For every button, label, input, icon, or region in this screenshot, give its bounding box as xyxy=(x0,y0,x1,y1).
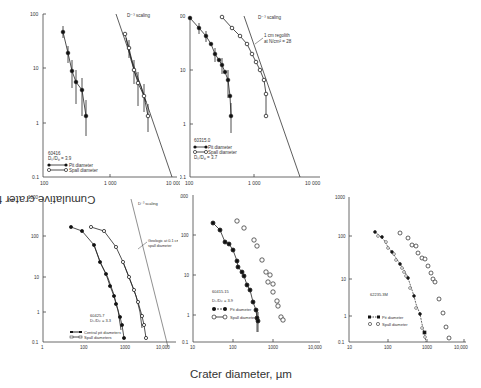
x-axis-label: Crater diameter, µm xyxy=(190,368,292,380)
legend: 62235.3M Pit diameter Spall diameter xyxy=(368,292,408,327)
x-tick-100: 100 xyxy=(80,345,88,350)
y-tick-0.1: 0.1 xyxy=(338,340,345,345)
y-tick-10: 10 xyxy=(184,273,190,278)
x-tick-10000: 10,000 xyxy=(454,345,468,350)
pit-series xyxy=(188,16,233,133)
diameter-ratio: Dₛ/Dₚ = 3.9 xyxy=(48,156,72,161)
panel-60425: 1000 100 10 1 0.1 1 100 1000 10,000 D⁻³ … xyxy=(28,192,178,352)
y-tick-100: 100 xyxy=(31,234,39,239)
x-tick-100: 100 xyxy=(384,345,392,350)
x-tick-1000: 1 000 xyxy=(248,180,261,186)
legend-spall: Spall diameter xyxy=(208,150,237,155)
geologic-annotation-1: Geologic at 0.1 cm xyxy=(148,239,178,243)
legend: 60415.15 Dₛ/Dₚ = 3.9 Pit diameter Spall … xyxy=(212,289,256,320)
x-tick-10: 10 xyxy=(347,345,353,350)
panel-60416: 100 10 1 0.1 100 1 000 10 000 D⁻³ scalin… xyxy=(30,8,180,188)
y-tick-10: 10 xyxy=(34,275,40,280)
pit-series xyxy=(61,26,88,136)
y-tick-0.1: 0.1 xyxy=(32,340,39,345)
legend-spall: Spall diameter xyxy=(230,315,256,320)
legend-spall: Spall diameter xyxy=(69,168,98,173)
y-tick-100: 100 xyxy=(338,234,346,239)
x-tick-1000: 1 000 xyxy=(104,180,117,186)
sample-id: 60415.15 xyxy=(212,289,229,294)
x-tick-10000: 10 000 xyxy=(166,180,180,186)
legend-spall: Spall diameters xyxy=(84,335,112,340)
y-tick-1: 1 xyxy=(187,313,190,318)
scaling-annotation: D⁻³ scaling xyxy=(258,15,282,20)
y-tick-1: 1 xyxy=(37,310,40,315)
y-tick-1: 1 xyxy=(36,120,39,126)
legend-spall: Spall diameter xyxy=(382,322,408,327)
y-tick-1: 1 xyxy=(183,121,186,127)
sample-id: 62235.3M xyxy=(370,292,388,297)
x-tick-100: 100 xyxy=(229,345,237,350)
x-tick-10: 10 xyxy=(190,345,196,350)
legend: 60416 Dₛ/Dₚ = 3.9 Pit diameter Spall dia… xyxy=(47,151,98,173)
x-tick-1000: 1000 xyxy=(120,345,131,350)
spall-series xyxy=(123,32,150,132)
regolith-annotation-2: at N/cm² = 28 xyxy=(264,39,292,44)
legend-pit: Pit diameter xyxy=(230,307,252,312)
y-axis-label: Cumulative crater frequency, cm2 xyxy=(3,70,23,330)
scaling-annotation: D⁻³ scaling xyxy=(138,201,158,206)
x-tick-10000: 10,000 xyxy=(156,345,170,350)
d-3-scaling-line xyxy=(131,199,168,347)
y-tick-10: 10 xyxy=(180,67,186,73)
legend: 60315.0 Pit diameter Spall diameter Dₛ/D… xyxy=(193,138,237,160)
y-tick-10: 10 xyxy=(33,65,39,71)
y-tick-1000: 1000 xyxy=(335,195,346,200)
y-tick-0.1: 0.1 xyxy=(182,340,189,345)
y-tick-10: 10 xyxy=(341,277,347,282)
y-tick-1000: 1000 xyxy=(180,194,189,199)
y-tick-100: 100 xyxy=(181,233,189,238)
x-tick-100: 100 xyxy=(40,180,49,186)
diameter-ratio: Dₛ/Dₚ = 3.3 xyxy=(90,318,112,323)
y-tick-100: 100 xyxy=(30,11,39,17)
y-tick-1: 1 xyxy=(344,314,347,319)
y-tick-0.1: 0.1 xyxy=(32,174,39,180)
panel-62235: 1000 100 10 1 0.1 10 100 1000 10,000 622… xyxy=(330,192,481,352)
x-tick-10000: 10 000 xyxy=(305,180,321,186)
regolith-annotation-1: 1 cm regolith xyxy=(264,33,290,38)
legend-pit: Pit diameter xyxy=(382,315,404,320)
x-tick-1000: 1000 xyxy=(422,345,433,350)
sample-id: 60315.0 xyxy=(194,138,211,143)
x-tick-1000: 1000 xyxy=(268,345,279,350)
diameter-ratio: Dₛ/Dₚ = 3.7 xyxy=(194,155,218,160)
spall-series xyxy=(220,15,268,118)
panel-60315: 100 10 1 0.1 100 1 000 10 000 D⁻³ scalin… xyxy=(180,8,325,188)
diameter-ratio: Dₛ/Dₚ = 3.9 xyxy=(212,298,234,303)
scaling-annotation: D⁻³ scaling xyxy=(127,13,151,18)
x-tick-1: 1 xyxy=(41,345,44,350)
geologic-annotation-2: spall diameter xyxy=(148,244,172,248)
x-tick-10000: 10,000 xyxy=(308,345,322,350)
legend: 60425.7 Dₛ/Dₚ = 3.3 Central pit diameter… xyxy=(70,313,121,340)
y-tick-100: 100 xyxy=(180,13,186,19)
y-tick-1000: 1000 xyxy=(28,195,39,200)
x-tick-100: 100 xyxy=(185,180,194,186)
panel-60415: 1000 100 10 1 0.1 10 100 1000 10,000 604… xyxy=(180,192,330,352)
